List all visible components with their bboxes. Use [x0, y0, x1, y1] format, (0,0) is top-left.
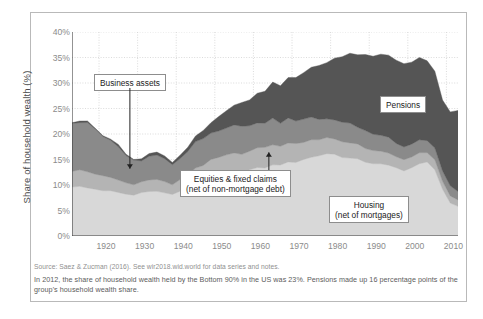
y-tick-label: 40% [36, 27, 70, 37]
x-tick-label: 1940 [174, 241, 193, 251]
y-tick-label: 15% [36, 155, 70, 165]
y-tick-label: 25% [36, 104, 70, 114]
chart-figure: Share of household wealth (%) 0%5%10%15%… [0, 0, 483, 319]
x-tick-label: 1950 [212, 241, 231, 251]
annotation-line: (net of non-mortgage debt) [186, 184, 285, 194]
y-tick-label: 35% [36, 53, 70, 63]
x-tick-label: 1990 [367, 241, 386, 251]
y-tick-label: 30% [36, 78, 70, 88]
x-tick-label: 1970 [289, 241, 308, 251]
x-tick-label: 1980 [328, 241, 347, 251]
x-tick-label: 1920 [96, 241, 115, 251]
x-tick-label: 2000 [405, 241, 424, 251]
annotation-line: (net of mortgages) [335, 210, 403, 220]
y-axis-ticks: 0%5%10%15%20%25%30%35%40% [32, 32, 70, 234]
y-tick-label: 20% [36, 129, 70, 139]
annotation-line: Pensions [386, 100, 420, 110]
annotation-line: Housing [335, 200, 403, 210]
annotation-housing: Housing(net of mortgages) [329, 196, 409, 223]
annotation-line: Business assets [100, 78, 160, 88]
y-tick-label: 10% [36, 180, 70, 190]
plot-area-wrapper: Share of household wealth (%) 0%5%10%15%… [32, 18, 463, 256]
y-tick-label: 0% [36, 231, 70, 241]
annotation-line: Equities & fixed claims [186, 174, 285, 184]
figure-footer: Source: Saez & Zucman (2016). See wir201… [34, 262, 458, 294]
source-text: Source: Saez & Zucman (2016). See wir201… [34, 262, 458, 271]
x-axis-ticks: 1920193019401950196019701980199020002010 [79, 236, 458, 254]
annotation-business-assets: Business assets [94, 74, 166, 91]
y-tick-label: 5% [36, 206, 70, 216]
x-tick-label: 2010 [444, 241, 463, 251]
x-tick-label: 1930 [135, 241, 154, 251]
note-text: In 2012, the share of household wealth h… [34, 275, 458, 294]
annotation-equities: Equities & fixed claims(net of non-mortg… [180, 170, 291, 197]
x-tick-label: 1960 [251, 241, 270, 251]
annotation-pensions: Pensions [380, 96, 426, 113]
